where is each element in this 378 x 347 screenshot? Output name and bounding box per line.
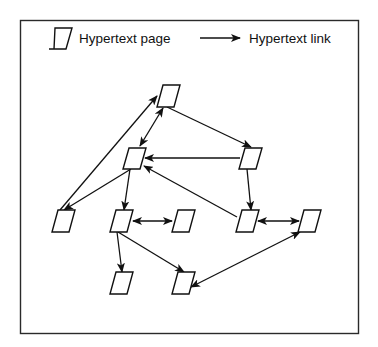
page-node-d [52, 210, 75, 232]
page-node-f [172, 210, 195, 232]
page-node-a [157, 85, 180, 107]
page-node-g [236, 210, 259, 232]
page-node-c [239, 148, 262, 169]
legend: Hypertext page Hypertext link [49, 28, 331, 49]
link-e-i [117, 232, 122, 272]
hypertext-diagram: Hypertext page Hypertext link [0, 0, 378, 347]
page-node-b [123, 148, 146, 169]
page-node-j [172, 272, 195, 294]
page-node-i [110, 272, 133, 294]
link-c-g [247, 169, 251, 210]
link-b-d [64, 169, 131, 210]
link-b-e [124, 169, 130, 210]
legend-link-label: Hypertext link [249, 31, 331, 46]
link-a-b [140, 108, 163, 146]
link-a-c [167, 107, 251, 147]
legend-page-icon [49, 28, 72, 49]
link-j-h [191, 232, 300, 287]
page-node-e [110, 210, 133, 232]
legend-page-label: Hypertext page [79, 31, 171, 46]
page-node-h [298, 210, 321, 232]
links [60, 96, 300, 287]
link-e-j [118, 232, 184, 272]
